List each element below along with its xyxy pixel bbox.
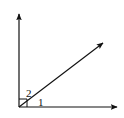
- angle-2-label: 2: [26, 87, 32, 99]
- angle-1-label: 1: [38, 96, 44, 108]
- diagonal-ray: [19, 43, 103, 107]
- angle-diagram: 2 1: [0, 0, 124, 118]
